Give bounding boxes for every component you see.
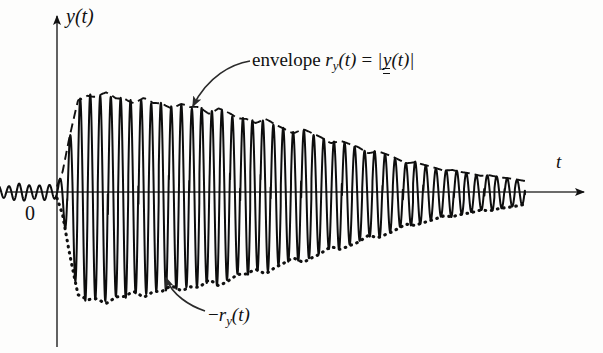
signal-group	[0, 93, 525, 304]
y-axis-label: y(t)	[66, 6, 94, 26]
envelope-figure: y(t) t 0 envelope ry(t)=|y(t)| −ry(t)	[0, 0, 603, 353]
y-axis-label-symbol: y	[66, 5, 75, 27]
envelope-annotation-label: envelope ry(t)=|y(t)|	[252, 50, 415, 73]
abs-bar-close: |	[409, 50, 415, 69]
envelope-word: envelope	[252, 49, 321, 70]
neg-envelope-args: (t)	[232, 304, 250, 325]
envelope-pointer-arrow	[193, 61, 250, 106]
envelope-inner-symbol: y	[383, 50, 391, 69]
envelope-inner-args: (t)	[391, 49, 409, 70]
envelope-args: (t)	[338, 49, 356, 70]
signal-waveform	[0, 94, 525, 301]
envelope-equals: =	[356, 49, 377, 70]
t-axis-label: t	[556, 152, 561, 171]
envelope-symbol: r	[325, 49, 332, 70]
origin-label: 0	[25, 203, 35, 223]
negative-envelope-annotation-label: −ry(t)	[208, 305, 250, 328]
minus-sign: −	[208, 304, 219, 325]
y-axis-label-args: (t)	[75, 5, 94, 27]
neg-envelope-symbol: r	[219, 304, 226, 325]
